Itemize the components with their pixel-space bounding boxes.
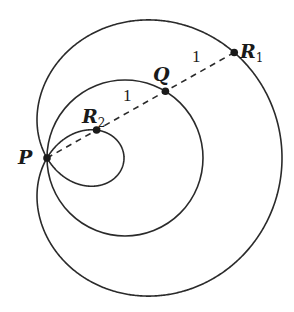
segment-length-Q-R1: 1 [192,48,201,65]
point-R1 [230,49,238,57]
label-Q: Q [153,65,170,84]
label-P: P [18,148,32,167]
segment-length-R2-Q: 1 [123,87,132,104]
label-R2: R2 [82,107,105,129]
label-R1: R1 [240,42,263,64]
point-P [43,154,51,162]
dashed-ray-P-to-R1 [47,53,234,158]
limacon-inner-loop [47,130,124,187]
limacon-diagram: P R2 Q R1 1 1 [0,0,294,312]
point-Q [162,87,170,95]
